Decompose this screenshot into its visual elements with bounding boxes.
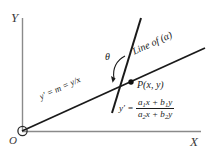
fraction-lhs: y′ xyxy=(119,104,125,113)
figure-canvas xyxy=(0,0,207,153)
fraction-equation: y′ = a1x + b1y a2x + b2y xyxy=(119,98,174,119)
denominator-a-subscript: 2 xyxy=(143,113,146,120)
geometry-figure: Y X O Line of (α) P(x, y) θ y′ = m = y/x… xyxy=(0,0,207,153)
numerator-a-subscript: 1 xyxy=(143,101,146,108)
numerator-a: a xyxy=(138,97,143,107)
fraction: a1x + b1y a2x + b2y xyxy=(136,98,174,119)
fraction-numerator: a1x + b1y xyxy=(136,98,174,108)
fraction-denominator: a2x + b2y xyxy=(136,109,174,119)
denominator-y-term: y xyxy=(168,109,172,119)
denominator-b-subscript: 2 xyxy=(165,113,168,120)
origin-label: O xyxy=(9,135,17,146)
numerator-y-term: y xyxy=(168,97,172,107)
numerator-b-subscript: 1 xyxy=(165,101,168,108)
fraction-equals-sign: = xyxy=(128,104,133,113)
x-axis-label: X xyxy=(190,135,198,148)
point-P-marker xyxy=(128,79,133,84)
denominator-x-term: x + b xyxy=(146,109,165,119)
numerator-x-term: x + b xyxy=(146,97,165,107)
point-p-label: P(x, y) xyxy=(137,80,164,90)
denominator-a: a xyxy=(138,109,143,119)
theta-angle-label: θ xyxy=(105,52,110,62)
y-axis-label: Y xyxy=(11,11,18,24)
